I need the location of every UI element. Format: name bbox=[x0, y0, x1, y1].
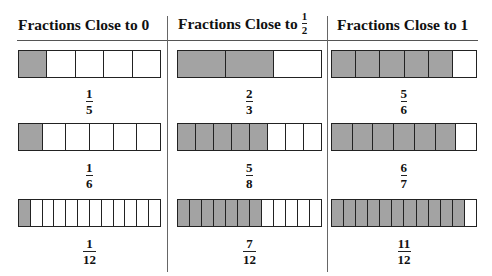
shaded-segment bbox=[436, 124, 457, 150]
header-label: Fractions Close to 0 bbox=[18, 16, 149, 34]
empty-segment bbox=[43, 200, 55, 226]
shaded-segment bbox=[250, 200, 262, 226]
fraction-numerator: 5 bbox=[246, 161, 253, 174]
fraction-denominator: 7 bbox=[401, 177, 408, 190]
shaded-segment bbox=[356, 200, 368, 226]
column-divider bbox=[327, 16, 328, 272]
fraction-label: 16 bbox=[86, 161, 93, 190]
fraction-bar-1-12 bbox=[18, 199, 161, 227]
fraction-numerator: 1 bbox=[86, 161, 93, 174]
empty-segment bbox=[133, 51, 160, 77]
shaded-segment bbox=[190, 200, 202, 226]
empty-segment bbox=[298, 200, 310, 226]
fraction-denominator: 3 bbox=[246, 103, 253, 116]
empty-segment bbox=[54, 200, 66, 226]
fraction-denominator: 2 bbox=[302, 25, 308, 36]
empty-segment bbox=[90, 200, 102, 226]
fraction-bar-7-12 bbox=[177, 199, 322, 227]
fraction-bar-5-8 bbox=[177, 123, 322, 151]
shaded-segment bbox=[19, 124, 43, 150]
shaded-segment bbox=[368, 200, 380, 226]
shaded-segment bbox=[404, 200, 416, 226]
empty-segment bbox=[137, 200, 149, 226]
fraction-numerator: 2 bbox=[246, 87, 253, 100]
shaded-segment bbox=[441, 200, 453, 226]
empty-segment bbox=[274, 51, 321, 77]
empty-segment bbox=[310, 200, 321, 226]
shaded-segment bbox=[394, 124, 415, 150]
fraction-label: 1112 bbox=[398, 237, 411, 266]
empty-segment bbox=[66, 200, 78, 226]
shaded-segment bbox=[202, 200, 214, 226]
empty-segment bbox=[304, 124, 321, 150]
shaded-segment bbox=[250, 124, 268, 150]
fraction-bar-1-6 bbox=[18, 123, 161, 151]
fraction-label: 15 bbox=[86, 87, 93, 116]
shaded-segment bbox=[226, 51, 274, 77]
empty-segment bbox=[453, 51, 476, 77]
shaded-segment bbox=[214, 200, 226, 226]
fraction-denominator: 8 bbox=[246, 177, 253, 190]
empty-segment bbox=[47, 51, 75, 77]
fraction-numerator: 11 bbox=[398, 237, 410, 250]
fraction-label: 23 bbox=[246, 87, 253, 116]
shaded-segment bbox=[405, 51, 429, 77]
empty-segment bbox=[104, 51, 132, 77]
shaded-segment bbox=[238, 200, 250, 226]
shaded-segment bbox=[178, 200, 190, 226]
shaded-segment bbox=[178, 51, 226, 77]
header-close-to-0: Fractions Close to 0 bbox=[18, 16, 149, 34]
header-close-to-half: Fractions Close to 1 2 bbox=[178, 11, 307, 36]
empty-segment bbox=[268, 124, 286, 150]
shaded-segment bbox=[19, 51, 47, 77]
shaded-segment bbox=[380, 51, 404, 77]
empty-segment bbox=[43, 124, 67, 150]
table-header: Fractions Close to 0 Fractions Close to … bbox=[0, 0, 492, 41]
empty-segment bbox=[90, 124, 114, 150]
fraction-bar-2-3 bbox=[177, 50, 322, 78]
header-fraction-half: 1 2 bbox=[302, 11, 308, 36]
shaded-segment bbox=[429, 51, 453, 77]
empty-segment bbox=[102, 200, 114, 226]
empty-segment bbox=[31, 200, 43, 226]
empty-segment bbox=[465, 200, 476, 226]
header-close-to-1: Fractions Close to 1 bbox=[337, 16, 468, 34]
fraction-bar-1-5 bbox=[18, 50, 161, 78]
header-divider bbox=[17, 40, 478, 41]
fraction-numerator: 6 bbox=[401, 161, 408, 174]
shaded-segment bbox=[417, 200, 429, 226]
shaded-segment bbox=[344, 200, 356, 226]
fraction-numerator: 5 bbox=[401, 87, 408, 100]
header-label: Fractions Close to 1 bbox=[337, 16, 468, 34]
fraction-denominator: 5 bbox=[86, 103, 93, 116]
shaded-segment bbox=[380, 200, 392, 226]
fraction-bar-11-12 bbox=[331, 199, 477, 227]
empty-segment bbox=[78, 200, 90, 226]
fraction-label: 712 bbox=[243, 237, 256, 266]
fraction-denominator: 6 bbox=[86, 177, 93, 190]
shaded-segment bbox=[332, 51, 356, 77]
fraction-label: 56 bbox=[401, 87, 408, 116]
shaded-segment bbox=[415, 124, 436, 150]
fraction-numerator: 7 bbox=[246, 237, 253, 250]
fraction-label: 112 bbox=[83, 237, 96, 266]
shaded-segment bbox=[453, 200, 465, 226]
empty-segment bbox=[114, 124, 138, 150]
empty-segment bbox=[286, 124, 304, 150]
empty-segment bbox=[114, 200, 126, 226]
empty-segment bbox=[286, 200, 298, 226]
fraction-numerator: 1 bbox=[86, 87, 93, 100]
fraction-denominator: 12 bbox=[243, 253, 256, 266]
fraction-bar-6-7 bbox=[331, 123, 477, 151]
empty-segment bbox=[149, 200, 160, 226]
shaded-segment bbox=[356, 51, 380, 77]
shaded-segment bbox=[226, 200, 238, 226]
fraction-label: 58 bbox=[246, 161, 253, 190]
shaded-segment bbox=[332, 124, 353, 150]
empty-segment bbox=[76, 51, 104, 77]
empty-segment bbox=[66, 124, 90, 150]
shaded-segment bbox=[19, 200, 31, 226]
empty-segment bbox=[262, 200, 274, 226]
empty-segment bbox=[125, 200, 137, 226]
shaded-segment bbox=[392, 200, 404, 226]
